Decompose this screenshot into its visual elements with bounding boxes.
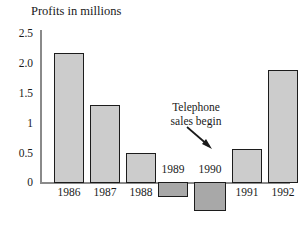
- y-tick-label: 0: [0, 176, 33, 188]
- y-tick-1: 1: [0, 117, 33, 129]
- x-label-1992: 1992: [264, 186, 298, 199]
- x-label-1986: 1986: [50, 186, 88, 199]
- bar-1992[interactable]: [268, 70, 298, 183]
- bar-1986[interactable]: [54, 53, 84, 183]
- annotation-line-1: Telephone: [152, 101, 240, 115]
- y-tick-label: 1: [0, 117, 33, 129]
- bar-1989[interactable]: [158, 182, 188, 197]
- bar-1987[interactable]: [90, 105, 120, 183]
- x-label-1987: 1987: [86, 186, 124, 199]
- y-tick-0: 0: [0, 176, 33, 188]
- y-tick-2.0: 2.0: [0, 57, 33, 69]
- bar-1990[interactable]: [194, 182, 226, 211]
- y-tick-2.5: 2.5: [0, 27, 33, 39]
- y-tick-label: 1.5: [0, 87, 33, 99]
- x-label-1988: 1988: [122, 186, 160, 199]
- y-tick-0.5: 0.5: [0, 147, 33, 159]
- y-tick-label: 2.0: [0, 57, 33, 69]
- profits-bar-chart: Profits in millions 2.5 2.0 1.5 1 0.5 0 …: [0, 0, 298, 231]
- y-tick-1.5: 1.5: [0, 87, 33, 99]
- bar-1988[interactable]: [126, 153, 156, 183]
- y-tick-label: 2.5: [0, 27, 33, 39]
- x-label-1991: 1991: [228, 186, 266, 199]
- annotation-telephone-sales: Telephone sales begin: [152, 101, 240, 128]
- y-tick-label: 0.5: [0, 147, 33, 159]
- annotation-line-2: sales begin: [152, 115, 240, 129]
- x-label-1990: 1990: [191, 163, 229, 176]
- x-label-1989: 1989: [154, 163, 192, 176]
- bar-1991[interactable]: [232, 149, 262, 183]
